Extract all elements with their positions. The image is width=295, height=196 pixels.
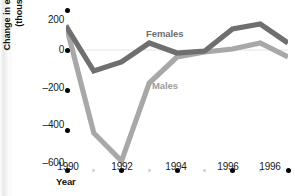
x-tick-label-1990: 1990 xyxy=(48,161,88,172)
x-tick-label-1994: 1994 xyxy=(156,161,196,172)
y-tick-dot xyxy=(65,88,70,93)
x-minor-tick-dot xyxy=(92,169,95,172)
x-tick-label-1998: 1996 xyxy=(250,161,290,172)
x-tick-label-1996: 1996 xyxy=(208,161,248,172)
x-axis-title: Year xyxy=(56,176,76,187)
x-tick-label-1992: 1992 xyxy=(102,161,142,172)
x-minor-tick-dot xyxy=(203,169,206,172)
chart-screenshot: Change in employment (thousands) 200 0 –… xyxy=(0,0,295,196)
y-tick-dot xyxy=(65,128,70,133)
y-tick-dot xyxy=(65,48,70,53)
x-minor-tick-dot xyxy=(148,169,151,172)
y-tick-dot xyxy=(65,8,70,13)
